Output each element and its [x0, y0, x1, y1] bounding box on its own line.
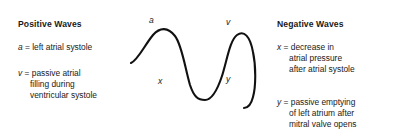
equals-sign: = — [23, 42, 33, 52]
definition-line: filling during — [18, 79, 97, 90]
definition-line: after atrial systole — [277, 64, 355, 75]
equals-sign: = — [281, 97, 291, 107]
positive-waves-panel: Positive Waves a = left atrial systole v… — [18, 0, 136, 138]
equals-sign: = — [281, 42, 291, 52]
negative-waves-panel: Negative Waves x = decrease in atrial pr… — [277, 0, 397, 138]
definition-line: left atrial systole — [32, 42, 92, 52]
negative-entry-x: x = decrease in atrial pressure after at… — [277, 42, 355, 76]
positive-waves-heading: Positive Waves — [18, 19, 82, 29]
wave-label-a: a — [149, 15, 154, 25]
definition-line: passive atrial — [32, 68, 81, 78]
wave-label-v: v — [226, 17, 230, 27]
definition-line: atrial pressure — [277, 53, 355, 64]
definition-line: decrease in — [291, 42, 334, 52]
definition-line: of left atrium after — [277, 108, 357, 119]
definition-line: passive emptying — [291, 97, 356, 107]
definition-line: mitral valve opens — [277, 119, 357, 130]
negative-entry-y: y = passive emptying of left atrium afte… — [277, 97, 357, 131]
definition-line: ventricular systole — [18, 90, 97, 101]
equals-sign: = — [22, 68, 32, 78]
atrial-pressure-waveform — [120, 8, 265, 130]
figure-root: Positive Waves a = left atrial systole v… — [0, 0, 400, 138]
waveform-curve — [120, 8, 265, 130]
wave-label-y: y — [226, 74, 230, 84]
positive-entry-a: a = left atrial systole — [18, 42, 92, 53]
negative-waves-heading: Negative Waves — [277, 19, 344, 29]
positive-entry-v: v = passive atrial filling during ventri… — [18, 68, 97, 102]
wave-label-x: x — [158, 76, 162, 86]
